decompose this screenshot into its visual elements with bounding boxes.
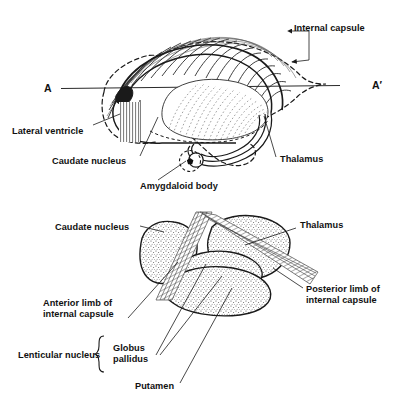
internal-capsule-genu <box>116 86 133 104</box>
label-anterior-limb-line1: Anterior limb of <box>43 298 113 308</box>
lateral-ventricle-leader <box>93 114 120 125</box>
label-internal-capsule: Internal capsule <box>294 23 365 33</box>
label-posterior-limb-line1: Posterior limb of <box>306 284 381 294</box>
caudate-nucleus-leader-upper <box>140 117 158 156</box>
anatomy-figure: A A′ Internal capsule Lateral ventricle … <box>0 0 398 399</box>
label-putamen: Putamen <box>135 381 174 391</box>
label-anterior-limb-line2: internal capsule <box>43 309 114 319</box>
lower-diagram: Caudate nucleus Thalamus Posterior limb … <box>18 212 381 391</box>
label-lateral-ventricle: Lateral ventricle <box>12 126 83 136</box>
label-thalamus-lower: Thalamus <box>300 220 343 230</box>
label-amygdaloid-body: Amygdaloid body <box>140 181 219 191</box>
label-caudate-nucleus-lower: Caudate nucleus <box>55 222 129 232</box>
internal-capsule-leader <box>292 31 309 62</box>
amygdaloid-body-leader <box>158 161 186 180</box>
label-thalamus-upper: Thalamus <box>280 154 323 164</box>
thalamus-leader-upper <box>264 116 276 157</box>
label-lenticular-nucleus: Lenticular nucleus <box>18 350 100 360</box>
section-label-a-prime: A′ <box>372 79 383 91</box>
caudate-head-hatch <box>119 102 140 142</box>
figure-canvas: A A′ Internal capsule Lateral ventricle … <box>0 0 398 399</box>
thalamus-outline-upper <box>162 79 268 140</box>
section-label-a: A <box>44 82 52 94</box>
upper-diagram: A A′ Internal capsule Lateral ventricle … <box>12 23 383 191</box>
label-caudate-nucleus-upper: Caudate nucleus <box>52 156 126 166</box>
label-posterior-limb-line2: internal capsule <box>306 295 377 305</box>
label-globus-line2: pallidus <box>113 354 148 364</box>
label-globus-line1: Globus <box>113 343 145 353</box>
